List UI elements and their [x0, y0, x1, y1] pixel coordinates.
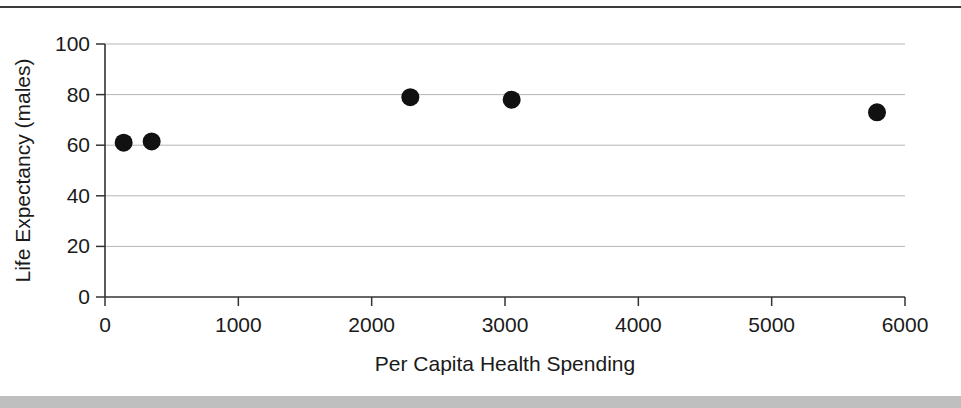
x-tick-label: 6000	[882, 313, 929, 336]
x-axis-title: Per Capita Health Spending	[375, 352, 635, 375]
y-tick-label: 20	[67, 234, 90, 257]
data-point-marker	[115, 134, 133, 152]
scatter-chart: 020406080100 0100020003000400050006000 P…	[0, 8, 961, 394]
x-tick-label: 0	[99, 313, 111, 336]
x-axis-ticks-group: 0100020003000400050006000	[99, 297, 928, 336]
y-tick-label: 60	[67, 133, 90, 156]
y-axis-title: Life Expectancy (males)	[11, 58, 34, 282]
x-tick-label: 1000	[215, 313, 262, 336]
bottom-grey-band	[0, 396, 961, 408]
data-point-marker	[143, 132, 161, 150]
figure-page: 020406080100 0100020003000400050006000 P…	[0, 0, 961, 408]
data-markers-group	[115, 88, 886, 152]
y-tick-label: 80	[67, 83, 90, 106]
x-tick-label: 4000	[615, 313, 662, 336]
x-tick-label: 3000	[482, 313, 529, 336]
y-axis-ticks-group: 020406080100	[55, 32, 105, 308]
data-point-marker	[401, 88, 419, 106]
data-point-marker	[503, 91, 521, 109]
y-tick-label: 0	[78, 285, 90, 308]
x-tick-label: 2000	[348, 313, 395, 336]
x-tick-label: 5000	[748, 313, 795, 336]
data-point-marker	[868, 103, 886, 121]
y-tick-label: 100	[55, 32, 90, 55]
gridlines-group	[105, 44, 905, 246]
y-tick-label: 40	[67, 184, 90, 207]
scatter-plot-svg: 020406080100 0100020003000400050006000 P…	[0, 8, 961, 394]
